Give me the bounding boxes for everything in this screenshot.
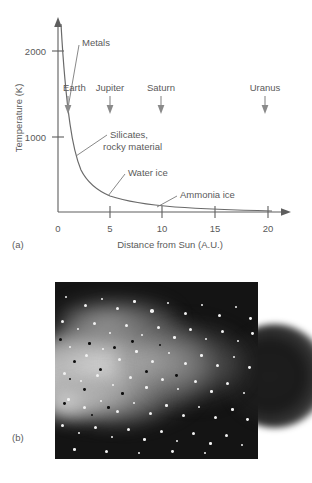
star (184, 312, 187, 315)
panel-b-caption: (b) (12, 432, 24, 443)
star (111, 436, 113, 438)
star (171, 450, 174, 453)
star (201, 304, 203, 306)
star (231, 408, 234, 411)
star (209, 442, 212, 445)
star (184, 362, 187, 365)
star (173, 336, 176, 339)
annotation-ammonia-ice-label: Ammonia ice (180, 189, 235, 200)
photo-clip-region (55, 282, 258, 459)
dark-speckle (63, 402, 66, 405)
dark-speckle (121, 392, 124, 395)
planet-label-jupiter: Jupiter (96, 82, 125, 93)
star (150, 309, 154, 313)
panel-a-chart: 2000 1000 0 5 10 15 20 Temperature (K) D… (0, 0, 312, 252)
star (133, 300, 136, 303)
planet-label-earth: Earth (63, 82, 86, 93)
star (94, 426, 97, 429)
nebula-photograph (55, 282, 258, 459)
panel-b-photo: (b) (0, 252, 312, 483)
annotation-silicates-label-line2: rocky material (103, 141, 162, 152)
star (248, 366, 251, 369)
star (135, 350, 138, 353)
star (78, 432, 80, 434)
panel-a-caption: (a) (12, 239, 24, 250)
dark-speckle (113, 346, 116, 349)
star (165, 404, 168, 407)
y-axis-title: Temperature (K) (13, 84, 24, 153)
temperature-curve (61, 24, 272, 211)
y-ticklabel-1000: 1000 (25, 132, 46, 143)
star (249, 317, 252, 320)
planet-arrow-head-uranus-icon (262, 105, 269, 114)
annotation-water-ice-label: Water ice (128, 167, 168, 178)
star (127, 428, 130, 431)
star (192, 432, 195, 435)
star (210, 390, 213, 393)
planet-label-uranus: Uranus (250, 82, 281, 93)
star (160, 430, 163, 433)
annotation-silicates-label-line1: Silicates, (110, 129, 148, 140)
x-axis-arrow-icon (281, 208, 291, 216)
x-ticklabel-0: 0 (55, 223, 60, 234)
y-ticklabel-2000: 2000 (25, 46, 46, 57)
star (143, 438, 146, 441)
x-axis-title: Distance from Sun (A.U.) (117, 239, 223, 250)
dark-speckle (145, 370, 148, 373)
star (65, 296, 67, 298)
star (235, 306, 237, 308)
star (129, 376, 132, 379)
nebula-upper-wisp (59, 298, 177, 342)
planet-arrow-head-jupiter-icon (107, 105, 114, 114)
star (176, 440, 178, 442)
planet-label-saturn: Saturn (147, 82, 175, 93)
x-ticklabel-20: 20 (263, 223, 274, 234)
star (145, 386, 148, 389)
dark-speckle (107, 406, 110, 409)
star (225, 434, 228, 437)
star (198, 406, 200, 408)
dark-speckle (131, 340, 134, 343)
dark-speckle (59, 338, 62, 341)
star (63, 372, 66, 375)
x-ticklabel-15: 15 (210, 223, 221, 234)
star (214, 416, 217, 419)
x-ticklabel-10: 10 (157, 223, 168, 234)
star (105, 450, 108, 453)
temperature-distance-chart: 2000 1000 0 5 10 15 20 Temperature (K) D… (0, 0, 312, 252)
planet-arrow-head-earth-icon (65, 105, 72, 114)
planet-arrow-head-saturn-icon (158, 105, 165, 114)
annotation-water-ice-leader (108, 174, 125, 196)
star (61, 320, 64, 323)
star (204, 452, 206, 454)
star (241, 444, 243, 446)
x-ticklabel-5: 5 (107, 223, 112, 234)
star (61, 424, 64, 427)
nebula-faint-halo (151, 338, 241, 396)
annotation-ammonia-ice-leader (157, 196, 177, 207)
star (85, 354, 88, 357)
dark-speckle (175, 374, 178, 377)
figure-root: 2000 1000 0 5 10 15 20 Temperature (K) D… (0, 0, 312, 483)
star (194, 380, 197, 383)
star (246, 418, 249, 421)
star (221, 330, 224, 333)
star (251, 332, 254, 335)
dark-speckle (83, 388, 86, 391)
star (182, 414, 185, 417)
annotation-metals-label: Metals (82, 37, 110, 48)
star (149, 412, 152, 415)
star (200, 354, 203, 357)
star (116, 307, 119, 310)
star (67, 398, 70, 401)
dark-speckle (88, 342, 91, 345)
star (109, 332, 111, 334)
star (138, 452, 140, 454)
star (243, 392, 245, 394)
star (218, 314, 221, 317)
star (73, 448, 76, 451)
annotation-metals-leader (68, 45, 79, 108)
star (167, 302, 169, 304)
star (157, 326, 160, 329)
